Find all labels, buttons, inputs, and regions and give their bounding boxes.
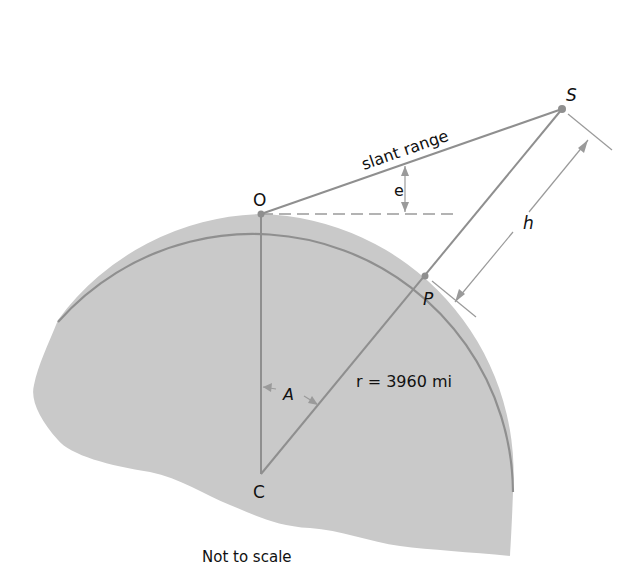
label-c: C xyxy=(253,482,265,502)
label-central-angle: A xyxy=(282,385,294,404)
label-height: h xyxy=(523,213,534,233)
e-arrowhead-down-icon xyxy=(401,202,409,212)
label-p: P xyxy=(423,289,434,309)
h-extension-line-top xyxy=(568,114,612,150)
slant-range-diagram: O S P C slant range e h A r = 3960 mi No… xyxy=(0,0,622,579)
h-dimension-line-lower xyxy=(455,232,513,302)
slant-range-line xyxy=(261,109,562,214)
label-s: S xyxy=(566,85,577,105)
label-o: O xyxy=(253,190,266,210)
point-o-marker xyxy=(258,211,265,218)
point-p-marker xyxy=(422,273,429,280)
label-radius: r = 3960 mi xyxy=(356,372,452,391)
e-arrowhead-up-icon xyxy=(401,166,409,176)
label-not-to-scale: Not to scale xyxy=(202,548,292,566)
h-dimension-line-upper xyxy=(529,140,588,212)
label-elevation-angle: e xyxy=(394,181,404,200)
point-s-marker xyxy=(558,105,566,113)
